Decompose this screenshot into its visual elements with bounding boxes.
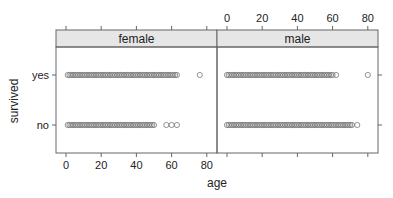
x-tick-label: 80	[201, 159, 213, 171]
x-tick-label-top: 20	[256, 12, 268, 24]
x-tick-label: 0	[63, 159, 69, 171]
chart-svg: female020406080male020406080yesno	[0, 0, 393, 198]
x-tick-label: 60	[165, 159, 177, 171]
data-point	[365, 72, 370, 77]
data-point	[174, 122, 179, 127]
y-tick-label: yes	[32, 69, 50, 81]
data-point	[169, 122, 174, 127]
y-tick-label: no	[37, 119, 49, 131]
data-point	[164, 122, 169, 127]
panel-frame	[56, 47, 217, 153]
x-tick-label-top: 40	[291, 12, 303, 24]
x-tick-label-top: 80	[362, 12, 374, 24]
data-point	[334, 72, 339, 77]
panel-strip-label: female	[118, 32, 154, 46]
lattice-chart: female020406080male020406080yesno age su…	[0, 0, 393, 198]
x-tick-label-top: 0	[224, 12, 230, 24]
x-tick-label: 40	[130, 159, 142, 171]
panel-frame	[217, 47, 378, 153]
x-axis-label: age	[207, 176, 227, 190]
panel-strip-label: male	[284, 32, 310, 46]
data-point	[197, 72, 202, 77]
data-point	[355, 122, 360, 127]
x-tick-label: 20	[95, 159, 107, 171]
x-tick-label-top: 60	[326, 12, 338, 24]
y-axis-label: survived	[7, 79, 21, 124]
